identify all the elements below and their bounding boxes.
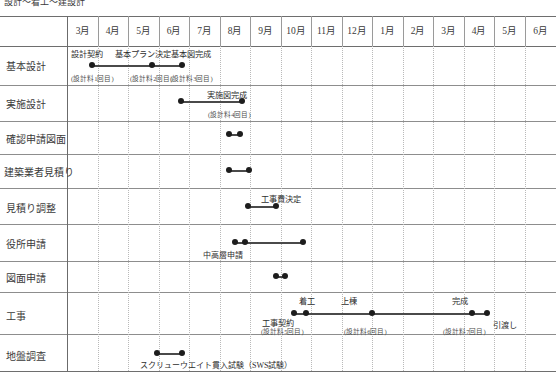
marker-label-kihon-plan: 基本プラン決定 <box>115 47 171 59</box>
gantt-bar-row1 <box>92 65 182 67</box>
gantt-marker-row2-1[interactable] <box>178 98 184 104</box>
month-header-8: 11月 <box>311 17 342 46</box>
gantt-chart-container: 設計〜着工〜建設計 3月 4月 5月 6月 7月 8月 9月 10月 11月 <box>0 0 556 377</box>
month-header-11: 2月 <box>403 17 433 46</box>
grid-vline-b-1 <box>98 46 99 371</box>
gantt-marker-row9-1[interactable] <box>154 350 160 356</box>
month-header-13: 4月 <box>464 17 494 46</box>
gantt-marker-row7-2[interactable] <box>282 273 288 279</box>
marker-sub-sekkeiryo-2: (設計料2回目) <box>130 73 173 83</box>
gantt-bar-row2 <box>181 101 242 103</box>
gantt-marker-row1-2[interactable] <box>149 62 155 68</box>
grid-vline-b-10 <box>372 46 373 371</box>
month-header-15: 6月 <box>525 17 556 46</box>
grid-vline-b-15 <box>525 46 526 371</box>
month-header-12: 3月 <box>433 17 464 46</box>
month-header-3: 6月 <box>159 17 189 46</box>
grid-vline-b-3 <box>159 46 160 371</box>
gantt-marker-row1-3[interactable] <box>179 62 185 68</box>
marker-label-kojihi-kettei: 工事費決定 <box>261 192 301 204</box>
grid-vline-b-13 <box>464 46 465 371</box>
marker-sub-sekkeiryo-4: (設計料4回目) <box>208 109 251 119</box>
grid-vline-label-sep <box>67 16 68 371</box>
month-header-14: 5月 <box>494 17 525 46</box>
gantt-marker-row1-1[interactable] <box>89 62 95 68</box>
gantt-marker-row6-2[interactable] <box>242 239 248 245</box>
month-header-4: 7月 <box>189 17 220 46</box>
gantt-marker-row4-2[interactable] <box>246 167 252 173</box>
gantt-marker-row5-2[interactable] <box>273 203 279 209</box>
marker-label-chukoso-shinsei: 中高層申請 <box>203 249 243 260</box>
grid-hline-r4 <box>0 188 556 189</box>
month-header-2: 5月 <box>128 17 159 46</box>
row-label-kakunin-shinsei: 確認申請図面 <box>6 131 66 146</box>
gantt-marker-row8-2[interactable] <box>303 310 309 316</box>
gantt-marker-row8-3[interactable] <box>369 310 375 316</box>
marker-sub-sekkeiryo-7: (設計料7回目) <box>443 326 486 336</box>
marker-label-kihonzu-kansei: 基本図完成 <box>171 47 211 59</box>
month-header-10: 1月 <box>372 17 403 46</box>
marker-sub-sekkeiryo-1: (設計料1回目) <box>71 73 114 83</box>
marker-sub-sekkeiryo-5: (設計料5回目) <box>261 326 304 336</box>
marker-sub-sekkeiryo-6: (設計料6回目) <box>344 326 387 336</box>
grid-hline-r1 <box>0 85 556 86</box>
marker-label-joto: 上棟 <box>341 294 357 306</box>
gantt-marker-row8-5[interactable] <box>484 310 490 316</box>
grid-vline-b-2 <box>128 46 129 371</box>
grid-vline-b-6 <box>250 46 251 371</box>
grid-hline-r7 <box>0 292 556 293</box>
gantt-marker-row6-3[interactable] <box>300 239 306 245</box>
gantt-marker-row3-1[interactable] <box>226 131 232 137</box>
gantt-marker-row7-1[interactable] <box>273 273 279 279</box>
row-label-koji: 工事 <box>6 308 26 323</box>
grid-hline-bottom <box>0 371 556 372</box>
grid-hline-r6 <box>0 261 556 262</box>
gantt-marker-row2-2[interactable] <box>239 98 245 104</box>
row-label-kihon-sekkei: 基本設計 <box>6 58 46 73</box>
grid-hline-r3 <box>0 154 556 155</box>
gantt-marker-row8-4[interactable] <box>469 310 475 316</box>
marker-label-sekkei-keiyaku: 設計契約 <box>71 47 103 59</box>
page-title: 設計〜着工〜建設計 <box>4 0 85 8</box>
row-label-zumen-shinsei: 図面申請 <box>6 270 46 285</box>
marker-sub-sekkeiryo-3: (設計料3回目) <box>170 73 213 83</box>
row-label-mitsumori-chosei: 見積り調整 <box>6 200 56 215</box>
marker-label-chakko: 着工 <box>299 294 315 306</box>
month-header-5: 8月 <box>220 17 250 46</box>
row-label-yakusho-shinsei: 役所申請 <box>6 236 46 251</box>
month-header-6: 9月 <box>250 17 281 46</box>
marker-label-hikiwatashi: 引渡し <box>493 318 517 330</box>
gantt-marker-row4-1[interactable] <box>226 167 232 173</box>
gantt-bar-row5 <box>248 206 276 208</box>
row-label-jisshi-sekkei: 実施設計 <box>6 96 46 111</box>
grid-vline-b-11 <box>403 46 404 371</box>
month-header-9: 12月 <box>342 17 372 46</box>
gantt-marker-row6-1[interactable] <box>232 239 238 245</box>
grid-vline-b-12 <box>433 46 434 371</box>
marker-label-sws-shiken: スクリューウエイト貫入試験（SWS試験） <box>140 359 292 370</box>
month-header-7: 10月 <box>281 17 311 46</box>
month-header-0: 3月 <box>68 17 98 46</box>
grid-vline-b-8 <box>311 46 312 371</box>
gantt-bar-row8 <box>294 313 487 315</box>
month-header-1: 4月 <box>98 17 128 46</box>
gantt-marker-row9-2[interactable] <box>179 350 185 356</box>
gantt-marker-row3-2[interactable] <box>237 131 243 137</box>
row-label-kenchiku-mitsumori: 建築業者見積り <box>4 164 74 179</box>
row-label-jiban-chosa: 地盤調査 <box>6 348 46 363</box>
gantt-marker-row5-1[interactable] <box>245 203 251 209</box>
grid-vline-b-4 <box>189 46 190 371</box>
grid-hline-r5 <box>0 224 556 225</box>
grid-vline-b-9 <box>342 46 343 371</box>
marker-label-kansei: 完成 <box>452 294 468 306</box>
grid-hline-r2 <box>0 121 556 122</box>
